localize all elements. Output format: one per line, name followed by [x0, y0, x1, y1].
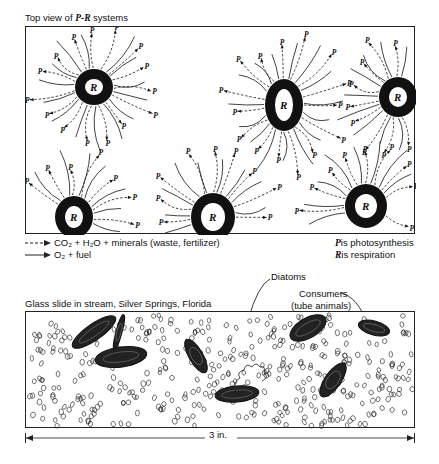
top-panel-title: Top view of P-R systems [25, 12, 128, 23]
diatoms-label: Diatoms [271, 271, 306, 282]
svg-text:R: R [393, 91, 401, 103]
svg-text:P: P [341, 136, 346, 145]
svg-text:P: P [132, 193, 137, 202]
svg-text:P: P [410, 224, 415, 233]
svg-text:R: R [208, 211, 216, 223]
svg-text:P: P [277, 183, 282, 192]
svg-text:R: R [69, 211, 77, 223]
svg-text:P: P [258, 52, 263, 61]
svg-text:P: P [186, 147, 191, 156]
svg-text:P: P [304, 30, 309, 39]
svg-text:P: P [237, 135, 242, 144]
svg-text:P: P [138, 42, 143, 51]
svg-text:P: P [60, 126, 65, 135]
svg-text:P: P [45, 111, 50, 120]
svg-text:P: P [26, 96, 30, 105]
svg-text:P: P [98, 148, 103, 157]
title-suffix: systems [90, 12, 127, 23]
dashed-arrow-icon [25, 238, 51, 248]
svg-text:P: P [72, 33, 77, 42]
svg-text:P: P [135, 221, 140, 230]
svg-text:P: P [68, 163, 73, 172]
consumers-sublabel: (tube animals) [291, 300, 351, 311]
svg-text:P: P [393, 39, 398, 48]
svg-text:P: P [390, 143, 395, 152]
svg-text:P: P [85, 139, 90, 148]
svg-text:P: P [407, 145, 412, 154]
svg-text:P: P [414, 182, 416, 191]
legend-p-definition: P is photosynthesis [335, 237, 414, 248]
glass-slide-drawing [26, 312, 416, 429]
svg-text:P: P [26, 177, 29, 186]
svg-text:P: P [332, 48, 337, 57]
svg-text:P: P [312, 151, 317, 160]
r-def-text: is respiration [341, 249, 395, 260]
svg-text:P: P [363, 145, 368, 154]
svg-text:P: P [38, 67, 43, 76]
svg-text:P: P [296, 173, 301, 182]
svg-text:P: P [152, 87, 157, 96]
bottom-panel-title: Glass slide in stream, Silver Springs, F… [25, 298, 211, 309]
svg-text:P: P [345, 103, 350, 112]
svg-text:P: P [294, 207, 299, 216]
svg-text:P: P [159, 218, 164, 227]
legend-r-definition: R is respiration [335, 249, 395, 260]
scale-bar: 3 in. [25, 430, 415, 442]
svg-text:P: P [407, 160, 412, 169]
glass-slide-panel [25, 311, 415, 428]
svg-text:P: P [351, 119, 356, 128]
legend-solid: O₂ + fuel [25, 249, 91, 260]
solid-arrow-icon [25, 250, 51, 260]
svg-text:P: P [328, 166, 333, 175]
svg-text:P: P [232, 108, 237, 117]
title-var: P-R [75, 13, 90, 23]
svg-text:R: R [89, 81, 97, 93]
svg-text:P: P [156, 172, 161, 181]
svg-text:P: P [121, 122, 126, 131]
svg-text:P: P [54, 52, 59, 61]
svg-text:P: P [153, 111, 158, 120]
svg-text:P: P [349, 80, 354, 89]
svg-text:P: P [213, 145, 218, 154]
svg-text:P: P [268, 213, 273, 222]
svg-text:P: P [234, 147, 239, 156]
consumers-label: Consumers [299, 288, 348, 299]
svg-text:P: P [90, 27, 95, 35]
svg-text:P: P [360, 58, 365, 67]
svg-text:P: P [276, 156, 281, 165]
svg-text:P: P [115, 27, 120, 32]
legend-dashed: CO₂ + H₂O + minerals (waste, fertilizer) [25, 237, 220, 248]
p-def-text: is photosynthesis [341, 237, 414, 248]
svg-text:P: P [310, 183, 315, 192]
svg-text:P: P [342, 151, 347, 160]
svg-text:P: P [280, 38, 285, 47]
svg-text:R: R [279, 99, 287, 111]
svg-text:P: P [365, 36, 370, 45]
legend-solid-text: O₂ + fuel [54, 249, 91, 260]
title-prefix: Top view of [25, 12, 75, 23]
svg-text:P: P [252, 167, 257, 176]
svg-text:P: P [45, 164, 50, 173]
svg-text:P: P [254, 147, 259, 156]
svg-text:P: P [113, 174, 118, 183]
svg-text:P: P [144, 62, 149, 71]
svg-text:P: P [236, 55, 241, 64]
legend-dashed-text: CO₂ + H₂O + minerals (waste, fertilizer) [54, 237, 220, 248]
svg-text:P: P [219, 86, 224, 95]
pr-systems-panel: PPPPPPPPPPPPPPPRPPPPPPPPPPPPPPPRPPPPPPPP… [25, 26, 415, 234]
scale-label: 3 in. [209, 429, 227, 440]
svg-text:R: R [361, 200, 369, 212]
svg-text:P: P [156, 194, 161, 203]
pr-systems-drawing: PPPPPPPPPPPPPPPRPPPPPPPPPPPPPPPRPPPPPPPP… [26, 27, 416, 235]
svg-text:P: P [105, 139, 110, 148]
